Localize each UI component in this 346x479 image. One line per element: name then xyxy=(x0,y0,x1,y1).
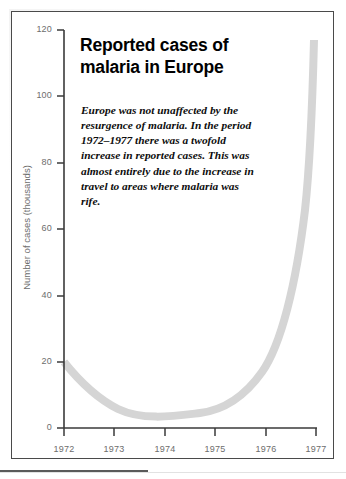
y-tick-label-120: 120 xyxy=(22,24,52,34)
y-tick-label-20: 20 xyxy=(22,356,52,366)
x-tick-label-1973: 1973 xyxy=(94,444,134,454)
x-tick-label-1972: 1972 xyxy=(44,444,84,454)
bottom-divider-faint xyxy=(0,472,346,473)
chart-title-line-2: malaria in Europe xyxy=(80,57,270,79)
x-tick-label-1977: 1977 xyxy=(296,444,336,454)
x-tick-label-1974: 1974 xyxy=(145,444,185,454)
chart-title-line-1: Reported cases of xyxy=(80,35,270,57)
x-tick-label-1976: 1976 xyxy=(246,444,286,454)
y-tick-label-100: 100 xyxy=(22,90,52,100)
chart-annotation: Europe was not unaffected by the resurge… xyxy=(81,103,256,209)
x-tick-label-1975: 1975 xyxy=(195,444,235,454)
y-axis-title: Number of cases (thousands) xyxy=(21,158,32,298)
y-tick-label-0: 0 xyxy=(22,422,52,432)
figure-root: 120 100 80 60 40 20 0 1972 1973 1974 197… xyxy=(0,0,346,479)
chart-title: Reported cases of malaria in Europe xyxy=(80,35,270,79)
